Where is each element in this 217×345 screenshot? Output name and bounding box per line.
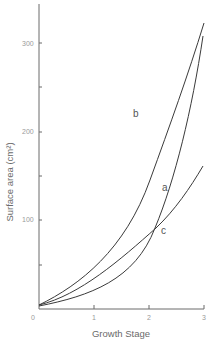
curve-label-b: b — [133, 108, 139, 119]
y-axis-title: Surface area (cm²) — [4, 142, 15, 221]
origin-label: 0 — [31, 314, 35, 321]
curve-c — [39, 166, 203, 305]
curve-a — [39, 36, 203, 306]
curve-b — [39, 23, 204, 305]
curve-label-c: c — [161, 225, 166, 236]
curve-label-a: a — [162, 182, 168, 193]
y-tick-label-100: 100 — [22, 216, 34, 223]
y-tick-label-300: 300 — [22, 40, 34, 47]
x-tick-label-2: 2 — [147, 314, 151, 321]
surface-area-chart: 100 200 300 0 1 2 3 Growth Stage Surface… — [0, 0, 217, 345]
y-tick-label-200: 200 — [22, 128, 34, 135]
x-tick-label-3: 3 — [202, 314, 206, 321]
x-ticks — [94, 305, 204, 309]
x-axis-title: Growth Stage — [92, 328, 150, 339]
x-tick-label-1: 1 — [92, 314, 96, 321]
